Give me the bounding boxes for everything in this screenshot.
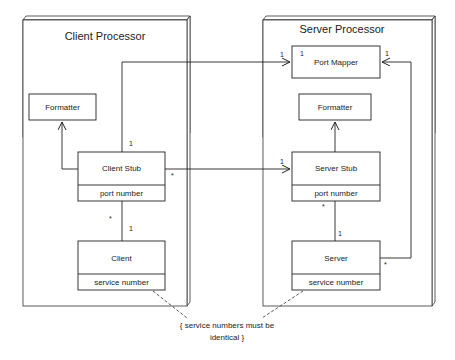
mult-client-stub-client-bottom: 1 <box>129 225 133 232</box>
server-processor-title: Server Processor <box>300 23 385 35</box>
mult-client-stub-client-top: * <box>109 215 112 222</box>
server-formatter-class[interactable]: Formatter <box>299 94 371 120</box>
client-stub-name: Client Stub <box>102 164 142 173</box>
mult-client-stub-port-mapper-src: 1 <box>129 140 133 147</box>
server-class[interactable]: Server service number <box>292 241 380 290</box>
mult-server-port-mapper-src: * <box>384 261 387 268</box>
mult-client-stub-server-stub-dst: 1 <box>280 158 284 165</box>
client-processor-title: Client Processor <box>65 30 146 42</box>
client-stub-class[interactable]: Client Stub port number <box>78 152 165 201</box>
client-formatter-class[interactable]: Formatter <box>29 94 96 120</box>
server-formatter-name: Formatter <box>318 103 353 112</box>
port-mapper-name: Port Mapper <box>314 58 358 67</box>
client-name: Client <box>111 254 132 263</box>
server-attribute: service number <box>309 278 364 287</box>
client-formatter-name: Formatter <box>45 103 80 112</box>
constraint-text-line2: identical } <box>210 333 245 342</box>
constraint-text-line1: { service numbers must be <box>180 321 275 330</box>
mult-port-mapper-inner: 1 <box>300 50 304 57</box>
port-mapper-class[interactable]: Port Mapper <box>292 46 380 78</box>
mult-server-port-mapper-dst: 1 <box>385 50 389 57</box>
server-stub-class[interactable]: Server Stub port number <box>292 152 380 201</box>
mult-server-stub-server-bottom: 1 <box>338 230 342 237</box>
deployment-diagram: Client Processor Server Processor Format… <box>0 0 455 360</box>
server-name: Server <box>324 254 348 263</box>
mult-client-stub-port-mapper-dst: 1 <box>280 51 284 58</box>
server-stub-name: Server Stub <box>315 164 358 173</box>
client-stub-attribute: port number <box>100 189 143 198</box>
mult-server-stub-server-top: * <box>322 203 325 210</box>
mult-client-stub-server-stub-src: * <box>171 172 174 179</box>
server-stub-attribute: port number <box>314 189 357 198</box>
client-class[interactable]: Client service number <box>78 241 165 290</box>
client-attribute: service number <box>94 278 149 287</box>
